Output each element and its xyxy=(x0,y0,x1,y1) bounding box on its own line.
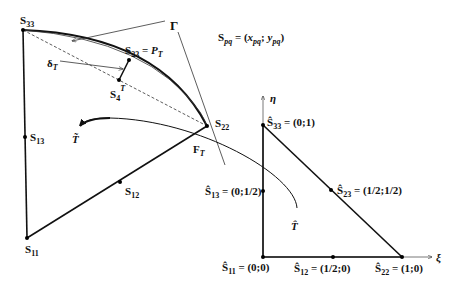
ref-node-s13 xyxy=(261,189,265,193)
vertex-s12 xyxy=(118,180,122,184)
label-xi: ξ xyxy=(436,251,441,264)
gamma-pointer-1 xyxy=(72,21,165,41)
vertex-s13 xyxy=(23,135,27,139)
label-s23-pt: S23 = PT xyxy=(125,44,164,59)
mapping-arrow-thick-end xyxy=(80,118,110,126)
label-s11: S11 xyxy=(25,243,39,258)
gamma-pointer-2 xyxy=(178,32,225,165)
label-t-hat: T̂ xyxy=(291,220,299,232)
label-s22: S22 xyxy=(215,117,229,132)
edge-s33-s11 xyxy=(23,30,27,238)
ref-label-s33: Ŝ33 = (0;1) xyxy=(267,116,315,131)
vertex-s22 xyxy=(205,124,209,128)
label-s4t: S4T xyxy=(110,84,126,103)
ref-label-s22: Ŝ22 = (1;0) xyxy=(375,262,423,277)
physical-element: S33 S13 S11 S12 S22 S23 = PT S4T δT Γ FT xyxy=(20,14,229,258)
label-s33: S33 xyxy=(20,14,34,29)
ref-node-s23 xyxy=(329,188,333,192)
mapping-arrow-curve xyxy=(80,118,297,208)
isoparametric-mapping-diagram: S33 S13 S11 S12 S22 S23 = PT S4T δT Γ FT… xyxy=(0,0,458,290)
segment-s4t-s23 xyxy=(119,60,129,80)
ref-node-s11 xyxy=(261,255,265,259)
legend-formula: Spq = (xpq; ypq) xyxy=(218,31,284,46)
ref-label-s11: Ŝ11 = (0;0) xyxy=(222,261,270,276)
label-s12: S12 xyxy=(125,185,139,200)
ref-label-s12: Ŝ12 = (1/2;0) xyxy=(294,262,351,277)
label-ft: FT xyxy=(193,143,206,158)
ref-label-s13: Ŝ13 = (0;1/2) xyxy=(205,185,262,200)
edge-s11-s22 xyxy=(27,126,207,238)
label-gamma: Γ xyxy=(170,18,178,33)
ref-node-s12 xyxy=(331,255,335,259)
vertex-s33 xyxy=(21,28,25,32)
label-s13: S13 xyxy=(30,131,44,146)
label-t-tilde: T̃ xyxy=(72,133,80,145)
label-delta-t: δT xyxy=(47,57,59,72)
reference-element: η ξ Ŝ33 = (0;1) Ŝ13 = (0;1/2) Ŝ23 = (1/2… xyxy=(205,92,441,277)
ref-node-s22 xyxy=(400,255,404,259)
vertex-s4t xyxy=(117,78,121,82)
label-eta: η xyxy=(270,92,276,104)
delta-pointer xyxy=(60,61,123,69)
mapping-curve: T̃ T̂ xyxy=(72,118,299,232)
ref-label-s23: Ŝ23 = (1/2;1/2) xyxy=(337,184,402,199)
ref-node-s33 xyxy=(261,123,265,127)
chord-s33-s22 xyxy=(23,30,207,126)
vertex-s11 xyxy=(25,236,29,240)
